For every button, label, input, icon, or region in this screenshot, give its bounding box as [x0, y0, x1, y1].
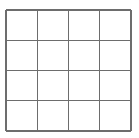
grid-cell — [69, 101, 100, 131]
grid-canvas — [0, 0, 139, 138]
grid-cell — [69, 10, 100, 40]
grid-cell — [69, 71, 100, 101]
grid-cell — [69, 40, 100, 70]
grid-cell — [6, 40, 37, 70]
grid-svg — [0, 0, 139, 138]
grid-cell — [37, 101, 68, 131]
grid-cell — [100, 101, 131, 131]
grid-cell — [37, 40, 68, 70]
grid-cell — [100, 71, 131, 101]
grid-cell — [37, 10, 68, 40]
grid-cell — [100, 10, 131, 40]
grid-cell — [6, 10, 37, 40]
grid-cell — [6, 71, 37, 101]
grid-cell — [100, 40, 131, 70]
grid-cell — [6, 101, 37, 131]
grid-cell — [37, 71, 68, 101]
